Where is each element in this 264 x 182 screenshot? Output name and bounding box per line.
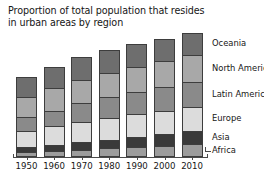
bar-segment-europe[interactable] <box>154 111 175 134</box>
x-axis-left-cap <box>13 154 14 158</box>
plot-area: 1950196019701980199020002010 OceaniaNort… <box>0 0 264 182</box>
bar-segment-north-america[interactable] <box>99 73 120 97</box>
bar-2010[interactable] <box>182 33 203 157</box>
bar-1970[interactable] <box>71 57 92 157</box>
bar-segment-asia[interactable] <box>182 131 203 145</box>
bar-segment-oceania[interactable] <box>99 50 120 73</box>
bar-segment-asia[interactable] <box>126 137 147 147</box>
x-axis-right-cap <box>207 154 208 158</box>
bar-segment-latin-america[interactable] <box>126 92 147 115</box>
bar-segment-asia[interactable] <box>154 134 175 146</box>
legend-label-asia: Asia <box>212 132 230 142</box>
bar-segment-north-america[interactable] <box>126 67 147 91</box>
legend-label-north-america: North America <box>212 63 264 73</box>
bar-segment-africa[interactable] <box>154 146 175 157</box>
bar-segment-europe[interactable] <box>126 114 147 137</box>
bar-segment-north-america[interactable] <box>154 61 175 86</box>
bar-segment-europe[interactable] <box>44 126 65 144</box>
bar-segment-africa[interactable] <box>99 148 120 157</box>
bar-segment-latin-america[interactable] <box>16 117 37 130</box>
bar-segment-asia[interactable] <box>99 140 120 148</box>
bar-segment-africa[interactable] <box>71 150 92 157</box>
bar-segment-africa[interactable] <box>126 147 147 157</box>
bar-segment-oceania[interactable] <box>126 44 147 67</box>
bar-segment-north-america[interactable] <box>71 80 92 104</box>
x-tick-label-2010: 2010 <box>175 161 209 171</box>
legend-leader-africa-vertical <box>205 147 206 152</box>
legend-label-africa: Africa <box>212 145 236 155</box>
bar-segment-oceania[interactable] <box>154 39 175 62</box>
bar-2000[interactable] <box>154 39 175 157</box>
bar-segment-europe[interactable] <box>99 118 120 140</box>
bar-1990[interactable] <box>126 44 147 157</box>
bar-segment-north-america[interactable] <box>16 97 37 118</box>
bar-segment-asia[interactable] <box>71 142 92 149</box>
bar-segment-europe[interactable] <box>71 122 92 142</box>
bar-segment-latin-america[interactable] <box>99 97 120 118</box>
legend-label-latin-america: Latin America <box>212 89 264 99</box>
bar-segment-europe[interactable] <box>182 107 203 131</box>
bar-segment-oceania[interactable] <box>71 57 92 80</box>
x-tick-1960 <box>54 157 55 160</box>
bar-1960[interactable] <box>44 67 65 157</box>
bar-1950[interactable] <box>16 77 37 157</box>
x-tick-1990 <box>137 157 138 160</box>
bar-segment-oceania[interactable] <box>44 67 65 88</box>
bar-segment-latin-america[interactable] <box>44 111 65 127</box>
legend-label-europe: Europe <box>212 113 241 123</box>
bar-segment-europe[interactable] <box>16 131 37 147</box>
x-tick-2000 <box>165 157 166 160</box>
x-tick-1970 <box>82 157 83 160</box>
bar-segment-oceania[interactable] <box>16 77 37 97</box>
x-axis-line <box>13 157 208 158</box>
x-tick-1950 <box>27 157 28 160</box>
bar-segment-north-america[interactable] <box>182 55 203 81</box>
x-tick-2010 <box>192 157 193 160</box>
bar-1980[interactable] <box>99 50 120 157</box>
legend-label-oceania: Oceania <box>212 38 246 48</box>
bar-segment-latin-america[interactable] <box>154 87 175 111</box>
bar-segment-latin-america[interactable] <box>182 82 203 107</box>
chart-container: Proportion of total population that resi… <box>0 0 264 182</box>
bar-segment-africa[interactable] <box>182 144 203 157</box>
x-tick-1980 <box>109 157 110 160</box>
bar-segment-north-america[interactable] <box>44 88 65 111</box>
bar-segment-latin-america[interactable] <box>71 103 92 121</box>
bar-segment-oceania[interactable] <box>182 33 203 56</box>
